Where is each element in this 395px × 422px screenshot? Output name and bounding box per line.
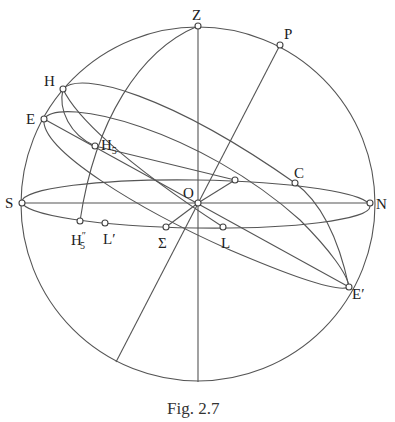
point-H5pp: [77, 218, 83, 224]
o-sigma-line: [166, 203, 198, 227]
point-P: [277, 42, 283, 48]
label-H5pp: H″5: [71, 230, 86, 251]
celestial-equator-upper: [44, 112, 349, 287]
label-Sigma: Σ: [158, 235, 167, 251]
point-horizon-upper: [232, 177, 238, 183]
label-E: E: [26, 111, 35, 127]
celestial-sphere-diagram: Z P H E H5 C S O N H″5 L′ Σ L E′ Fig. 2.…: [0, 0, 395, 422]
point-H5: [92, 143, 98, 149]
label-H: H: [44, 73, 55, 89]
point-O: [195, 200, 201, 206]
label-P: P: [284, 26, 292, 42]
label-Z: Z: [192, 7, 201, 23]
label-H5-sub: 5: [112, 145, 117, 156]
point-Lprime: [102, 220, 108, 226]
label-O: O: [183, 185, 194, 201]
label-H5pp-sub: 5: [80, 240, 85, 251]
point-S: [19, 200, 25, 206]
figure-caption: Fig. 2.7: [167, 399, 220, 418]
label-L: L: [221, 235, 230, 251]
diurnal-circle-H-lower: [295, 183, 349, 287]
label-H5-base: H: [101, 137, 112, 153]
label-S: S: [5, 195, 13, 211]
o-upper-point-line: [198, 180, 235, 203]
point-E: [41, 116, 47, 122]
label-C: C: [294, 165, 304, 181]
vertical-circle-arc: [80, 26, 198, 221]
label-N: N: [376, 196, 387, 212]
point-H: [60, 86, 66, 92]
point-L: [220, 224, 226, 230]
label-Lprime: L′: [103, 231, 115, 247]
label-Eprime: E′: [352, 286, 364, 302]
label-H5: H5: [101, 137, 117, 156]
point-Sigma: [163, 224, 169, 230]
point-Z: [195, 23, 201, 29]
point-N: [367, 200, 373, 206]
